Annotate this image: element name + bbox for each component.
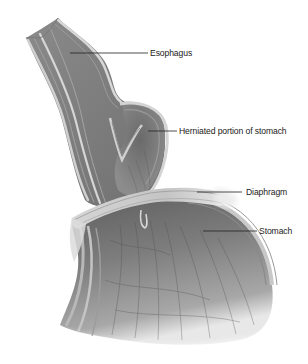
herniated-stomach-label: Herniated portion of stomach <box>179 126 287 136</box>
esophagus-label: Esophagus <box>150 48 192 58</box>
hiatal-hernia-diagram: Esophagus Herniated portion of stomach D… <box>0 0 308 364</box>
diaphragm-label: Diaphragm <box>246 187 287 197</box>
stomach-label: Stomach <box>259 226 293 236</box>
